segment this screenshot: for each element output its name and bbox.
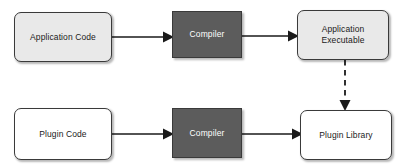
node-plugin-code[interactable]: Plugin Code xyxy=(14,108,112,160)
edge-application-executable-to-plugin-library-dashed xyxy=(336,59,354,113)
edge-plugin-code-to-compiler xyxy=(110,125,176,143)
node-application-executable[interactable]: Application Executable xyxy=(297,10,389,60)
edge-compiler-to-plugin-library xyxy=(240,125,306,143)
node-plugin-library[interactable]: Plugin Library xyxy=(300,110,392,160)
edge-compiler-to-application-executable xyxy=(240,27,302,45)
edge-application-code-to-compiler xyxy=(110,28,176,46)
node-application-code[interactable]: Application Code xyxy=(14,12,112,62)
diagram-canvas: Application Code Compiler Application Ex… xyxy=(0,0,407,166)
node-compiler-bottom[interactable]: Compiler xyxy=(172,108,242,158)
node-compiler-top[interactable]: Compiler xyxy=(172,11,242,58)
